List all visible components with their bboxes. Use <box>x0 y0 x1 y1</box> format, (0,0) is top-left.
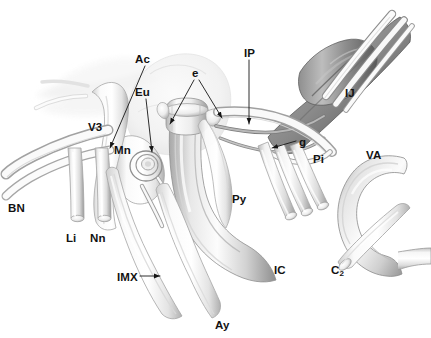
label-ac: Ac <box>135 54 150 66</box>
anatomy-illustration-svg <box>0 0 431 338</box>
anatomical-figure: BN Li Nn V3 Mn Ac Eu e IP IJ g Pi VA Py … <box>0 0 431 338</box>
label-ic: IC <box>274 265 286 277</box>
label-mn: Mn <box>114 145 131 157</box>
label-nn: Nn <box>90 233 106 245</box>
label-c2-subscript: 2 <box>339 269 344 278</box>
label-py: Py <box>232 194 246 206</box>
label-c2: C2 <box>331 265 344 277</box>
label-v3: V3 <box>88 122 102 134</box>
label-e: e <box>192 68 199 80</box>
label-eu: Eu <box>135 87 150 99</box>
label-pi: Pi <box>313 154 324 166</box>
label-li: Li <box>66 233 76 245</box>
label-imx: IMX <box>117 272 138 284</box>
label-ay: Ay <box>215 320 229 332</box>
label-ip: IP <box>244 48 255 60</box>
label-va: VA <box>366 150 381 162</box>
label-bn: BN <box>8 203 25 215</box>
label-g: g <box>299 137 306 149</box>
cut-nerve-tubes-li-nn <box>68 148 111 222</box>
label-ij: IJ <box>345 88 355 100</box>
